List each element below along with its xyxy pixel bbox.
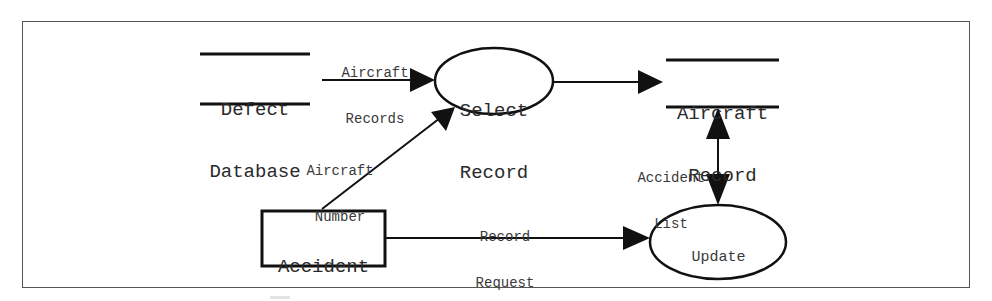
- record-request-flow-label: Record Request: [455, 200, 555, 301]
- aircraft-records-flow-label-line2: Records: [325, 112, 425, 127]
- accident-analyst-label-line1: Accident: [262, 257, 385, 278]
- select-record-label: Select Record: [435, 60, 553, 204]
- cropped-caption-trace: [270, 296, 290, 299]
- select-to-aircraft-record-arrow-icon: [553, 70, 663, 94]
- accident-list-flow-label: Accident List: [626, 141, 716, 247]
- select-record-label-line1: Select: [435, 101, 553, 122]
- record-request-flow-label-line1: Record: [455, 230, 555, 245]
- update-accident-details-label-line1: Update: [650, 249, 787, 266]
- aircraft-number-flow-label: Aircraft Number: [290, 134, 390, 240]
- select-record-label-line2: Record: [435, 163, 553, 184]
- aircraft-records-flow-label-line1: Aircraft: [325, 66, 425, 81]
- aircraft-records-flow-label: Aircraft Records: [325, 36, 425, 142]
- aircraft-number-flow-label-line1: Aircraft: [290, 164, 390, 179]
- accident-list-flow-label-line1: Accident: [626, 171, 716, 186]
- record-request-flow-label-line2: Request: [455, 276, 555, 291]
- accident-list-flow-label-line2: List: [626, 217, 716, 232]
- aircraft-record-label-line1: Aircraft: [666, 104, 779, 125]
- defect-database-label-line1: Defect: [200, 100, 310, 121]
- aircraft-number-flow-label-line2: Number: [290, 210, 390, 225]
